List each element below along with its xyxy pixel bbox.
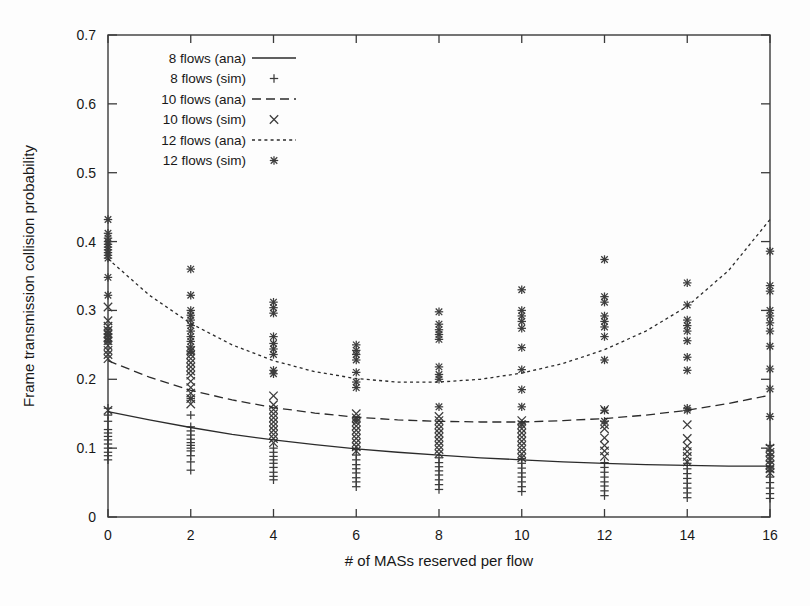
x-tick-label: 6 bbox=[352, 527, 360, 543]
curve-dotted bbox=[108, 220, 770, 383]
x-tick-label: 12 bbox=[597, 527, 613, 543]
legend-label: 10 flows (ana) bbox=[161, 92, 246, 107]
y-axis-label: Frame transmission collision probability bbox=[20, 145, 37, 407]
y-tick-label: 0.2 bbox=[77, 371, 97, 387]
x-tick-label: 0 bbox=[104, 527, 112, 543]
y-tick-label: 0.6 bbox=[77, 96, 97, 112]
x-tick-label: 16 bbox=[762, 527, 778, 543]
x-axis-label: # of MASs reserved per flow bbox=[345, 552, 534, 569]
legend-label: 10 flows (sim) bbox=[163, 112, 246, 127]
chart-legend: 8 flows (ana)8 flows (sim)10 flows (ana)… bbox=[161, 51, 296, 169]
y-tick-label: 0.5 bbox=[77, 165, 97, 181]
y-tick-label: 0.1 bbox=[77, 440, 97, 456]
scatter-markers bbox=[104, 215, 774, 502]
legend-label: 8 flows (sim) bbox=[170, 71, 246, 86]
y-tick-label: 0.3 bbox=[77, 302, 97, 318]
chart-figure: 0246810121416 00.10.20.30.40.50.60.7 8 f… bbox=[0, 0, 810, 606]
x-tick-labels: 0246810121416 bbox=[104, 527, 778, 543]
x-tick-label: 8 bbox=[435, 527, 443, 543]
y-tick-label: 0.4 bbox=[77, 234, 97, 250]
x-tick-label: 14 bbox=[679, 527, 695, 543]
y-tick-label: 0.7 bbox=[77, 27, 97, 43]
x-tick-label: 10 bbox=[514, 527, 530, 543]
y-tick-label: 0 bbox=[88, 509, 96, 525]
x-tick-label: 4 bbox=[270, 527, 278, 543]
legend-label: 8 flows (ana) bbox=[169, 51, 246, 66]
x-tick-label: 2 bbox=[187, 527, 195, 543]
legend-label: 12 flows (ana) bbox=[161, 133, 246, 148]
chart-canvas: 0246810121416 00.10.20.30.40.50.60.7 8 f… bbox=[0, 0, 810, 606]
legend-label: 12 flows (sim) bbox=[163, 153, 246, 168]
y-tick-labels: 00.10.20.30.40.50.60.7 bbox=[77, 27, 97, 525]
